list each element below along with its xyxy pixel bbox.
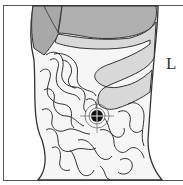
side-label-left: L — [166, 54, 176, 74]
abdomen-diagram — [0, 0, 183, 185]
